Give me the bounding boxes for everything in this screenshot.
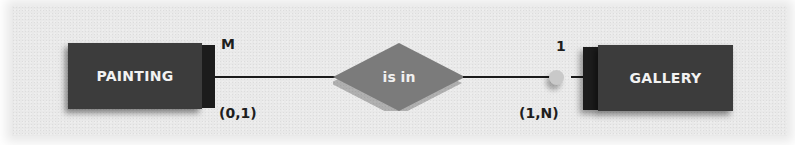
- entity-gallery-side: [583, 47, 599, 110]
- painting-role-label: M: [221, 36, 235, 52]
- relationship-is-in: is in: [333, 43, 465, 111]
- gallery-role-label: 1: [556, 38, 566, 54]
- entity-painting-side: [202, 45, 215, 108]
- relationship-label: is in: [333, 43, 465, 111]
- entity-painting: PAINTING: [68, 43, 202, 109]
- connector-painting-relationship: [215, 76, 335, 78]
- painting-cardinality: (0,1): [219, 105, 257, 121]
- gallery-cardinality: (1,N): [519, 105, 559, 121]
- entity-gallery-label: GALLERY: [630, 70, 702, 86]
- optional-participation-circle: [549, 70, 564, 85]
- entity-painting-label: PAINTING: [96, 68, 173, 84]
- entity-gallery: GALLERY: [598, 45, 733, 111]
- connector-relationship-gallery: [463, 76, 551, 78]
